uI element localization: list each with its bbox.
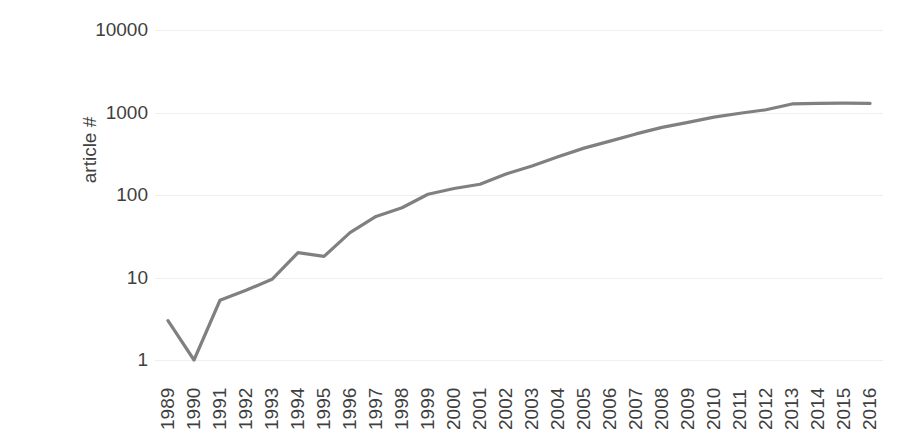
line-series-article-count [155, 30, 883, 360]
x-tick-label: 1989 [160, 370, 176, 430]
x-tick-label: 2016 [862, 370, 878, 430]
x-tick-label: 2002 [498, 370, 514, 430]
x-tick-label: 2006 [602, 370, 618, 430]
y-tick-label: 1000 [48, 103, 148, 122]
x-tick-label: 2004 [550, 370, 566, 430]
y-tick-label: 100 [48, 185, 148, 204]
x-tick-label: 1993 [264, 370, 280, 430]
x-tick-label: 1994 [290, 370, 306, 430]
x-tick-label: 2003 [524, 370, 540, 430]
x-tick-label: 2005 [576, 370, 592, 430]
y-tick-label: 10 [48, 268, 148, 287]
x-tick-label: 2008 [654, 370, 670, 430]
x-tick-label: 2012 [758, 370, 774, 430]
x-tick-label: 2015 [836, 370, 852, 430]
x-tick-label: 2010 [706, 370, 722, 430]
y-tick-label: 1 [48, 350, 148, 369]
x-tick-label: 2011 [732, 370, 748, 430]
x-tick-label: 1990 [186, 370, 202, 430]
x-tick-label: 1998 [394, 370, 410, 430]
gridline [155, 360, 883, 361]
x-tick-label: 1991 [212, 370, 228, 430]
x-tick-label: 2014 [810, 370, 826, 430]
x-tick-label: 2000 [446, 370, 462, 430]
x-tick-label: 2007 [628, 370, 644, 430]
x-tick-label: 2009 [680, 370, 696, 430]
plot-area [155, 30, 883, 360]
x-tick-label: 2001 [472, 370, 488, 430]
series-polyline [168, 103, 870, 360]
x-axis-tick-labels: 1989199019911992199319941995199619971998… [155, 362, 883, 419]
x-tick-label: 2013 [784, 370, 800, 430]
x-tick-label: 1996 [342, 370, 358, 430]
x-tick-label: 1999 [420, 370, 436, 430]
x-tick-label: 1992 [238, 370, 254, 430]
x-tick-label: 1995 [316, 370, 332, 430]
y-tick-label: 10000 [48, 20, 148, 39]
x-tick-label: 1997 [368, 370, 384, 430]
y-axis-tick-labels: 100001000100101 [45, 30, 148, 360]
